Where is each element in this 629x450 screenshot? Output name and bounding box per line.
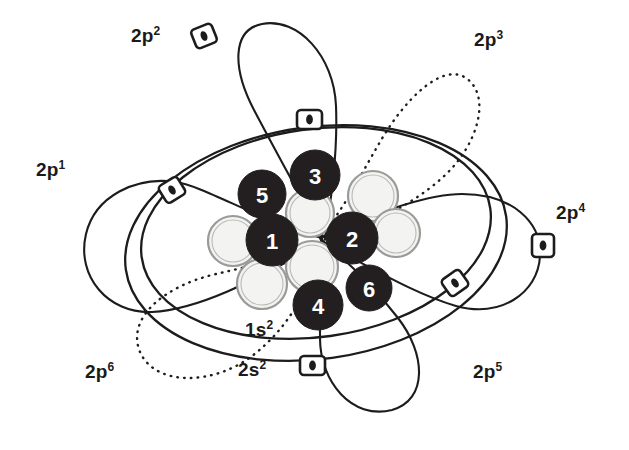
nucleon-5-label: 5 [256,183,268,208]
nucleon-light-right [372,209,420,257]
nucleon-6-label: 6 [363,277,375,302]
nucleon-1-label: 1 [266,229,278,254]
nucleon-2: 2 [326,212,378,264]
orbital-label-2p2: 2p2 [131,24,160,47]
orbital-label-2p3: 2p3 [474,28,503,51]
shell-label-2s2: 2s2 [238,358,266,381]
electron-marker-top[interactable] [297,110,322,129]
electron-marker-bottom[interactable] [300,356,325,375]
electron-marker-2p4[interactable] [532,234,554,257]
nucleon-4-label: 4 [312,294,325,319]
nucleon-4: 4 [293,280,343,330]
orbital-label-2p4: 2p4 [556,201,585,224]
nucleon-3-label: 3 [309,164,321,189]
nucleon-2-label: 2 [346,227,358,252]
electron-marker-2p2[interactable] [190,23,218,50]
nucleon-3: 3 [290,150,340,200]
orbital-label-2p5: 2p5 [473,360,502,383]
shell-label-1s2: 1s2 [245,318,273,341]
orbital-label-2p1: 2p1 [36,158,65,181]
nucleon-5: 5 [238,170,286,218]
diagram-canvas: 5 3 1 2 6 4 [0,0,629,450]
orbital-label-2p6: 2p6 [85,360,114,383]
nucleon-light-bottom-left [237,259,287,309]
nucleon-1: 1 [246,214,298,266]
nucleon-6: 6 [346,265,392,311]
